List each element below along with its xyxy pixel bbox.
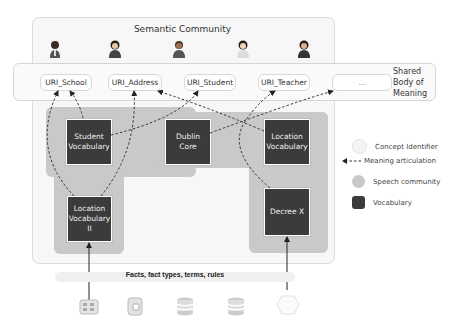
legend-concept-identifier: Concept Identifier: [352, 139, 438, 154]
facts-label: Facts, fact types, terms, rules: [55, 271, 295, 278]
speech-swatch-icon: [352, 175, 365, 188]
database-icon: [175, 296, 195, 316]
legend-label: Concept Identifier: [375, 143, 438, 151]
legend-speech-community: Speech community: [352, 175, 440, 188]
vocabulary-swatch-icon: [352, 196, 365, 209]
database-icon: [226, 296, 246, 316]
legend-label: Meaning articulation: [364, 157, 436, 165]
meaning-articulation-arrows: [0, 0, 451, 334]
concept-swatch-icon: [352, 139, 367, 154]
legend-meaning-articulation: Meaning articulation: [342, 157, 436, 165]
legend-label: Vocabulary: [373, 199, 412, 207]
legend-label: Speech community: [373, 178, 440, 186]
server-rack-icon: [79, 296, 99, 316]
dashed-arrow-icon: [342, 157, 362, 165]
legend-vocabulary: Vocabulary: [352, 196, 412, 209]
document-store-icon: [125, 296, 145, 316]
hexagon-source-icon: [276, 293, 300, 317]
